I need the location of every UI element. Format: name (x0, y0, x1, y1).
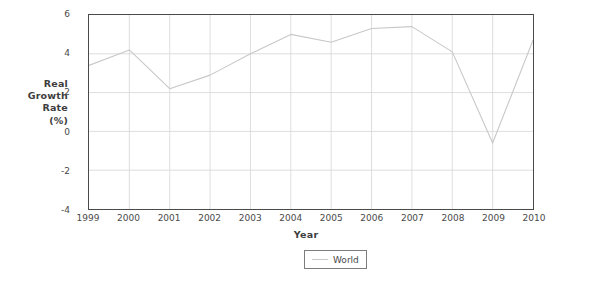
x-tick-label: 2002 (190, 213, 230, 223)
chart-figure: Real Growth Rate (%) 6420-2-4 1999200020… (0, 0, 612, 282)
y-tick-label: -2 (44, 166, 70, 176)
y-tick-label: 0 (44, 127, 70, 137)
x-tick-label: 1999 (68, 213, 108, 223)
x-tick-label: 2000 (109, 213, 149, 223)
y-axis-title-line: Rate (18, 102, 68, 114)
x-tick-label: 2010 (514, 213, 554, 223)
y-tick-label: 4 (44, 48, 70, 58)
chart-legend[interactable]: World (304, 250, 367, 269)
x-tick-label: 2008 (433, 213, 473, 223)
y-tick-label: 2 (44, 87, 70, 97)
x-tick-label: 2004 (271, 213, 311, 223)
x-tick-label: 2003 (230, 213, 270, 223)
plot-area (88, 14, 534, 210)
legend-label: World (333, 255, 359, 265)
x-tick-label: 2005 (311, 213, 351, 223)
x-axis-title: Year (0, 229, 612, 240)
legend-line-swatch (312, 259, 328, 260)
x-tick-label: 2009 (473, 213, 513, 223)
y-tick-label: -4 (44, 205, 70, 215)
y-axis-title: Real Growth Rate (%) (18, 78, 68, 127)
y-tick-label: 6 (44, 9, 70, 19)
data-series-layer (89, 15, 533, 209)
x-tick-label: 2007 (392, 213, 432, 223)
data-line-world (89, 27, 533, 143)
x-tick-label: 2006 (352, 213, 392, 223)
x-tick-label: 2001 (149, 213, 189, 223)
y-axis-title-line: (%) (18, 115, 68, 127)
